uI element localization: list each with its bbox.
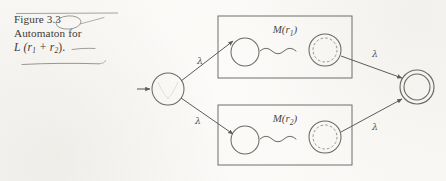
start-state — [152, 73, 184, 105]
caption-annotations — [16, 13, 118, 65]
pencil-overline-r2 — [72, 48, 95, 49]
lambda-edge-r1-to-accept — [341, 56, 402, 78]
lambda-edge-start-to-r1 — [181, 41, 233, 81]
machine-r2-final-inner-dashed — [313, 125, 337, 149]
figure-page: Figure 3.3 Automaton for L (r1 + r2). — [0, 0, 446, 181]
lambda-label-r1-to-accept: λ — [371, 48, 378, 59]
machine-box-r1-label: M(r1) — [272, 23, 298, 38]
machine-r1-final-inner-dashed — [313, 38, 337, 62]
accepting-state — [400, 70, 434, 104]
squiggle-path-r1 — [260, 48, 296, 54]
accepting-state-outer-ring — [400, 70, 434, 104]
machine-box-r2: M(r2) — [218, 105, 352, 165]
machine-r1-final-outer — [309, 34, 341, 66]
machine-box-r1: M(r1) — [218, 16, 352, 78]
accepting-state-inner-ring — [404, 74, 430, 100]
lambda-label-r2-to-accept: λ — [371, 121, 378, 132]
machine-r2-final-outer — [309, 121, 341, 153]
circled-number-annotation — [56, 15, 82, 30]
machine-box-r2-label: M(r2) — [272, 112, 298, 127]
machine-r2-start-state — [231, 126, 259, 154]
lambda-edge-start-to-r2 — [181, 98, 233, 134]
squiggle-path-r2 — [260, 136, 296, 142]
pencil-stroke-trailing — [80, 18, 104, 25]
lambda-label-start-to-r1: λ — [196, 55, 203, 66]
automaton-diagram: M(r1) M(r2) λ λ λ λ — [0, 0, 446, 181]
lambda-label-start-to-r2: λ — [194, 115, 201, 126]
machine-r1-start-state — [231, 38, 259, 66]
start-state-scan-artifact — [158, 82, 178, 99]
pencil-underline-hook — [99, 61, 106, 64]
pencil-underline-formula — [22, 63, 99, 64]
caption-top-rule — [16, 13, 118, 14]
